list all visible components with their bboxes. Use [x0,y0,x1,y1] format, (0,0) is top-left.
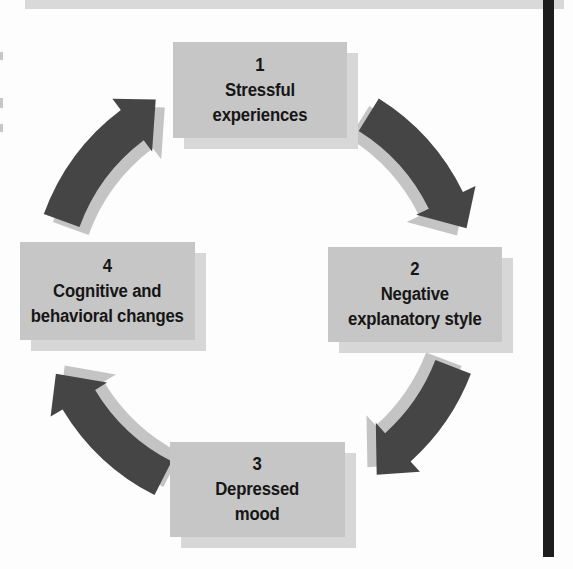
cycle-node-4-cognitive-behavioral-changes: 4 Cognitive and behavioral changes [20,242,195,340]
node-number: 3 [216,452,300,477]
node-label-line: Negative [348,282,482,307]
node-label-line: mood [216,502,300,527]
node-number: 1 [213,53,308,78]
cycle-node-1-stressful-experiences: 1 Stressful experiences [173,42,347,138]
node-label-line: Depressed [216,477,300,502]
node-label-line: Cognitive and [31,279,184,304]
page-edge-artifact [0,124,3,132]
node-label-line: experiences [213,103,308,128]
arrow-3-to-4 [51,374,172,495]
page-edge-artifact [0,52,3,60]
cycle-node-2-negative-explanatory-style: 2 Negative explanatory style [328,247,502,342]
top-border-bar [25,0,564,9]
page-edge-artifact [0,98,3,108]
page-edge-rule [543,0,554,557]
node-number: 2 [348,257,482,282]
node-label-line: explanatory style [348,307,482,332]
node-label-line: Stressful [213,78,308,103]
cycle-node-3-depressed-mood: 3 Depressed mood [170,442,345,537]
node-label-line: behavioral changes [31,304,184,329]
node-number: 4 [31,254,184,279]
figure-page: 1 Stressful experiences 2 Negative expla… [0,0,573,569]
